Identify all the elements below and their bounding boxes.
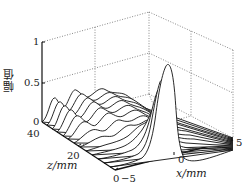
x-axis-label: x/mm (176, 168, 207, 179)
amp-tick-1: 1 (33, 37, 39, 47)
amp-tick-0: 0 (33, 117, 39, 127)
x-tick-5: 5 (236, 138, 242, 148)
amp-tick-0.5: 0.5 (24, 78, 40, 88)
x-tick-0: 0 (178, 155, 184, 165)
z-axis-label: z/mm (47, 160, 77, 171)
z-tick-40: 40 (27, 129, 40, 139)
x-tick-minus5: −5 (121, 174, 136, 184)
waterfall-plot (0, 0, 249, 188)
amplitude-axis-label: 幅值 (2, 68, 18, 92)
z-tick-0: 0 (113, 174, 119, 184)
